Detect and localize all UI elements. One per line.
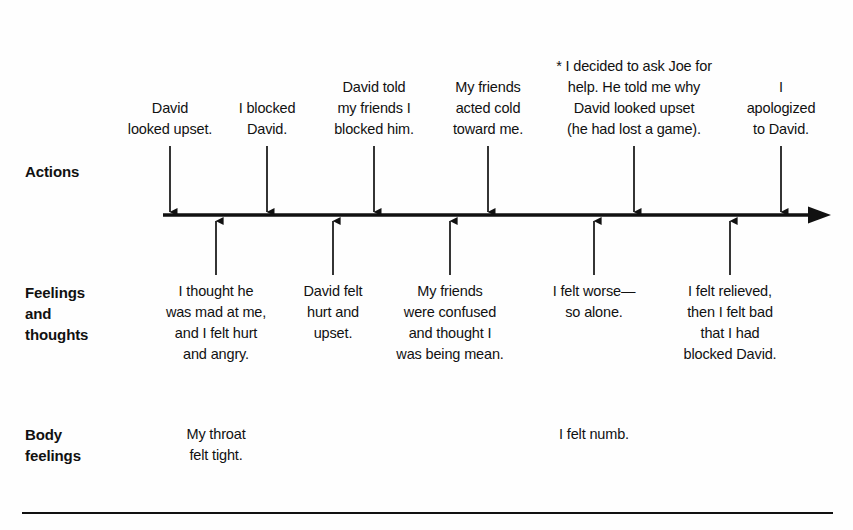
row-label-actions: Actions	[25, 161, 79, 182]
body-entry: I felt numb.	[559, 424, 629, 445]
row-label-feelings: Feelings and thoughts	[25, 282, 88, 345]
action-entry: David told my friends I blocked him.	[334, 77, 414, 140]
body-entry: My throat felt tight.	[186, 424, 245, 466]
action-entry: I blocked David.	[239, 98, 296, 140]
feeling-entry: I felt worse— so alone.	[553, 281, 636, 323]
feeling-connector-arrows	[216, 221, 730, 275]
action-entry: I apologized to David.	[745, 77, 817, 140]
timeline-axis	[163, 207, 831, 224]
bottom-divider	[22, 512, 833, 514]
feeling-entry: David felt hurt and upset.	[304, 281, 363, 344]
action-entry: David looked upset.	[128, 98, 212, 140]
action-entry: My friends acted cold toward me.	[453, 77, 523, 140]
action-connector-arrows	[170, 146, 781, 212]
feeling-entry: I felt relieved, then I felt bad that I …	[683, 281, 776, 365]
feeling-entry: I thought he was mad at me, and I felt h…	[166, 281, 266, 365]
action-entry: * I decided to ask Joe for help. He told…	[556, 56, 712, 140]
timeline-diagram: Actions Feelings and thoughts Body feeli…	[0, 0, 853, 530]
timeline-arrowhead-icon	[808, 207, 831, 224]
feeling-entry: My friends were confused and thought I w…	[396, 281, 503, 365]
row-label-body: Body feelings	[25, 424, 81, 466]
timeline-graphics	[0, 0, 853, 530]
